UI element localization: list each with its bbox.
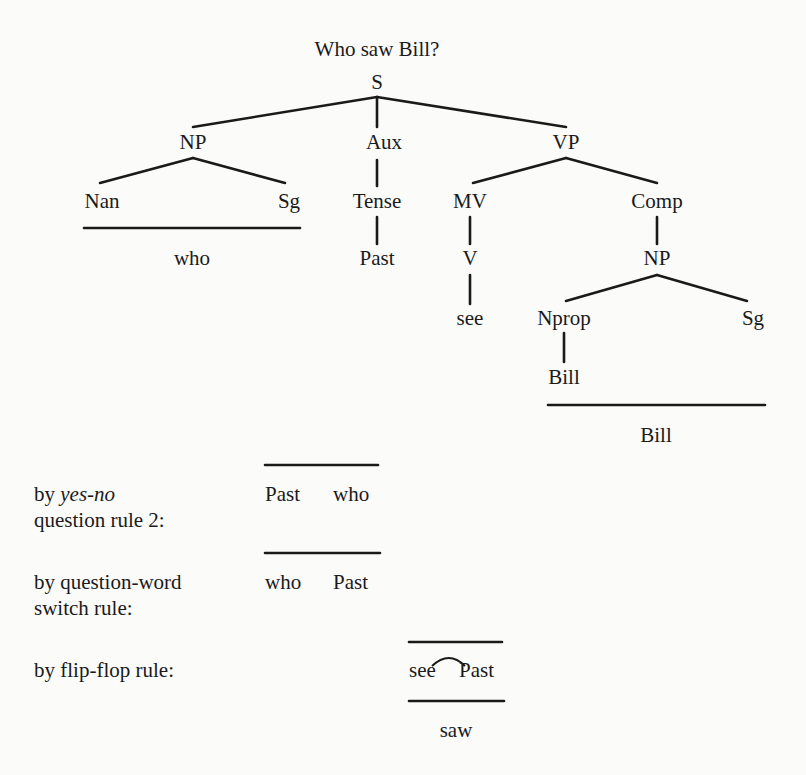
rule-switch-label-line2: switch rule: bbox=[34, 596, 133, 620]
word-Bill: Bill bbox=[640, 423, 672, 447]
node-NP: NP bbox=[180, 130, 207, 154]
result-3a: see bbox=[409, 658, 436, 682]
diagram-title: Who saw Bill? bbox=[315, 37, 440, 61]
rule-yes-no-label-line2: question rule 2: bbox=[34, 508, 165, 532]
node-Sg-object: Sg bbox=[742, 306, 764, 330]
node-Comp: Comp bbox=[631, 189, 682, 213]
result-2a: who bbox=[265, 570, 301, 594]
rule-prefix: by bbox=[34, 482, 60, 506]
node-Sg: Sg bbox=[278, 189, 300, 213]
rule-switch-label: by question-word bbox=[34, 570, 182, 594]
node-VP: VP bbox=[553, 130, 580, 154]
node-Aux: Aux bbox=[366, 130, 402, 154]
node-Bill: Bill bbox=[548, 365, 580, 389]
word-who: who bbox=[174, 246, 210, 270]
node-S: S bbox=[371, 70, 383, 94]
node-NP-object: NP bbox=[644, 246, 671, 270]
result-1a: Past bbox=[265, 482, 300, 506]
node-MV: MV bbox=[453, 189, 487, 213]
result-2b: Past bbox=[333, 570, 368, 594]
rule-italic: yes-no bbox=[60, 482, 115, 506]
node-Tense: Tense bbox=[353, 189, 402, 213]
rule-flip-flop-label: by flip-flop rule: bbox=[34, 658, 174, 682]
node-Nprop: Nprop bbox=[537, 306, 591, 330]
node-see: see bbox=[457, 306, 484, 330]
node-Nan: Nan bbox=[85, 189, 120, 213]
result-3b: Past bbox=[459, 658, 494, 682]
rule-yes-no-label: by yes-no bbox=[34, 482, 115, 506]
node-V: V bbox=[462, 246, 477, 270]
result-1b: who bbox=[333, 482, 369, 506]
result-saw: saw bbox=[440, 718, 473, 742]
node-Past: Past bbox=[359, 246, 394, 270]
